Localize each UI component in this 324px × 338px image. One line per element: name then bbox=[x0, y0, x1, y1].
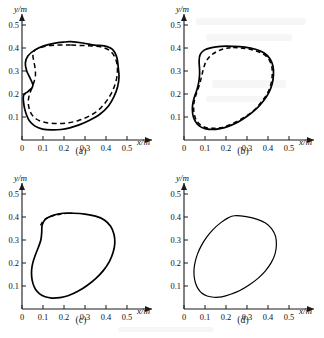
panel-d-plot: 0 0.1 0.2 0.3 0.4 0.5 0.1 0.2 0.3 0.4 0.… bbox=[162, 169, 324, 338]
panel-a-axes bbox=[19, 14, 152, 143]
panel-d-ytick-2: 0.3 bbox=[171, 236, 181, 245]
panel-a-ytick-2: 0.3 bbox=[9, 67, 19, 76]
panel-b-plot: 0 0.1 0.2 0.3 0.4 0.5 0.1 0.2 0.3 0.4 0.… bbox=[162, 0, 324, 169]
panel-a-ytick-4: 0.5 bbox=[9, 21, 19, 30]
panel-c-plot: 0 0.1 0.2 0.3 0.4 0.5 0.1 0.2 0.3 0.4 0.… bbox=[0, 169, 162, 338]
panel-b-ytick-2: 0.3 bbox=[171, 67, 181, 76]
panel-d: 0 0.1 0.2 0.3 0.4 0.5 0.1 0.2 0.3 0.4 0.… bbox=[162, 169, 324, 338]
panel-c-ytick-1: 0.2 bbox=[9, 259, 19, 268]
panel-a-ytick-0: 0.1 bbox=[9, 113, 19, 122]
panel-a-ytick-3: 0.4 bbox=[9, 44, 20, 53]
panel-d-ytick-0: 0.1 bbox=[171, 282, 181, 291]
panel-a-series-dashed bbox=[28, 45, 117, 124]
figure-four-panel-contours: 0 0.1 0.2 0.3 0.4 0.5 0.1 0.2 0.3 0.4 0.… bbox=[0, 0, 324, 338]
panel-b-series-dashed bbox=[194, 48, 273, 129]
panel-a-plot: 0 0.1 0.2 0.3 0.4 0.5 0.1 0.2 0.3 0.4 0.… bbox=[0, 0, 162, 169]
panel-b: 0 0.1 0.2 0.3 0.4 0.5 0.1 0.2 0.3 0.4 0.… bbox=[162, 0, 324, 169]
panel-c-ytick-0: 0.1 bbox=[9, 282, 19, 291]
panel-d-series-solid bbox=[194, 216, 276, 298]
panel-d-curves bbox=[194, 216, 276, 298]
panel-c-yaxis-label: y/m bbox=[13, 173, 27, 183]
panel-b-series-solid bbox=[192, 46, 273, 129]
panel-d-ytick-1: 0.2 bbox=[171, 259, 181, 268]
panel-c: 0 0.1 0.2 0.3 0.4 0.5 0.1 0.2 0.3 0.4 0.… bbox=[0, 169, 162, 338]
panel-a-curves bbox=[23, 42, 119, 130]
panel-c-ytick-2: 0.3 bbox=[9, 236, 19, 245]
panel-c-curves bbox=[32, 213, 115, 298]
panel-d-ytick-3: 0.4 bbox=[171, 213, 182, 222]
panel-b-ytick-3: 0.4 bbox=[171, 44, 182, 53]
panel-b-yaxis-label: y/m bbox=[175, 4, 189, 14]
panel-d-yaxis-label: y/m bbox=[175, 173, 189, 183]
panel-a-ytick-1: 0.2 bbox=[9, 90, 19, 99]
panel-c-caption: (c) bbox=[0, 315, 162, 325]
panel-c-ytick-3: 0.4 bbox=[9, 213, 20, 222]
panel-b-ytick-4: 0.5 bbox=[171, 21, 181, 30]
panel-d-ytick-4: 0.5 bbox=[171, 190, 181, 199]
panel-d-caption: (d) bbox=[162, 315, 324, 325]
panel-b-caption: (b) bbox=[162, 146, 324, 156]
panel-a-yaxis-label: y/m bbox=[13, 4, 27, 14]
panel-b-curves bbox=[192, 46, 273, 129]
panel-a: 0 0.1 0.2 0.3 0.4 0.5 0.1 0.2 0.3 0.4 0.… bbox=[0, 0, 162, 169]
panel-c-series-solid bbox=[32, 213, 115, 298]
panel-b-ytick-0: 0.1 bbox=[171, 113, 181, 122]
panel-a-series-solid bbox=[23, 42, 119, 130]
panel-b-ytick-1: 0.2 bbox=[171, 90, 181, 99]
panel-c-ytick-4: 0.5 bbox=[9, 190, 19, 199]
panel-a-caption: (a) bbox=[0, 146, 162, 156]
